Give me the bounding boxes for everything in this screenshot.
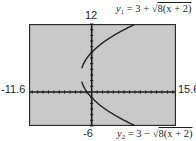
- plot-area: [29, 24, 176, 126]
- equation-y1-radicand: 8(x + 2): [158, 3, 192, 14]
- equation-y1: y1 = 3 + √8(x + 2): [116, 3, 191, 18]
- equation-y2-radicand: 8(x + 2): [159, 128, 193, 139]
- curve-y2: [82, 82, 134, 125]
- curves: [82, 25, 134, 126]
- ymin-label: -6: [83, 127, 93, 139]
- xmax-label: 15.6: [178, 83, 196, 95]
- equation-y1-rest: = 3 +: [124, 3, 152, 14]
- xmin-label: -11.6: [1, 83, 25, 95]
- tick-marks: [32, 24, 173, 126]
- ymax-label: 12: [85, 9, 97, 21]
- calculator-graph-figure: 12 -6 -11.6 15.6 y1 = 3 + √8(x + 2) y2 =…: [0, 0, 196, 141]
- axes: [29, 24, 176, 126]
- curve-y1: [82, 25, 134, 68]
- equation-y2: y2 = 3 − √8(x + 2): [117, 128, 192, 141]
- equation-y2-rest: = 3 −: [125, 128, 153, 139]
